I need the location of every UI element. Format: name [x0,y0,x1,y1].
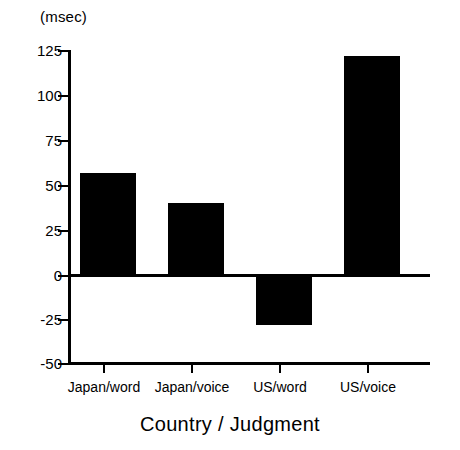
x-tick-us-voice [367,364,369,373]
y-tick-label-75: 75 [2,133,62,148]
y-tick-label-25: 25 [2,223,62,238]
bar-us-word [256,277,312,325]
x-label-us-voice: US/voice [308,379,428,395]
bar-us-voice [344,56,400,275]
x-axis-line [68,362,430,365]
plot-area: 125 100 75 50 25 0 -25 -50 Japan/word Ja… [0,0,460,450]
y-tick-label-neg25: -25 [2,312,62,327]
x-tick-japan-word [103,364,105,373]
y-tick-label-neg50: -50 [2,356,62,371]
x-axis-title: Country / Judgment [0,412,460,436]
x-tick-japan-voice [191,364,193,373]
zero-baseline [68,274,430,277]
bar-japan-voice [168,203,224,275]
x-tick-us-word [279,364,281,373]
y-tick-label-50: 50 [2,178,62,193]
y-tick-label-125: 125 [2,43,62,58]
y-axis-line [68,50,71,364]
bar-japan-word [80,173,136,275]
y-tick-label-100: 100 [2,88,62,103]
bar-chart: (msec) 125 100 75 50 25 0 -25 -50 [0,0,460,450]
y-tick-label-0: 0 [2,268,62,283]
